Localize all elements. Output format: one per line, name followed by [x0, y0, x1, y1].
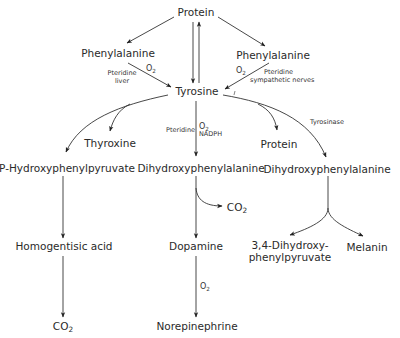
dhpp-line2: phenylpyruvate [249, 251, 332, 263]
node-dihydroxyphenylalanine-center: Dihydroxyphenylalanine [137, 162, 264, 174]
node-dihydroxyphenylpyruvate: 3,4-Dihydroxy- phenylpyruvate [249, 239, 332, 263]
co2-text: CO [53, 320, 69, 332]
node-phenylalanine-right: Phenylalanine [236, 49, 310, 61]
arrow-dopa-right-to-dhpp [290, 176, 328, 235]
label-left-o2: O2 [146, 64, 156, 76]
dhpp-line1: 3,4-Dihydroxy- [249, 239, 332, 251]
subscript-2: 2 [242, 206, 247, 215]
node-co2-center: CO2 [227, 201, 247, 217]
arrow-dopa-right-to-melanin [328, 208, 363, 236]
label-center-nadph: NADPH [199, 131, 222, 139]
node-tyrosine: Tyrosine [175, 85, 218, 97]
arrow-protein-to-phenylalanine-left [127, 17, 174, 43]
label-dopamine-o2: O2 [200, 282, 210, 294]
label-right-cofactor: Pteridine sympathetic nerves [250, 69, 314, 84]
label-left-cofactor: Pteridine liver [108, 70, 137, 85]
node-dopamine: Dopamine [169, 240, 223, 252]
subscript-2: 2 [68, 325, 73, 334]
arrow-protein-to-phenylalanine-right [218, 17, 265, 46]
label-right-o2: O2 [236, 66, 246, 78]
node-melanin: Melanin [346, 241, 387, 253]
label-tyrosinase: Tyrosinase [310, 119, 344, 127]
node-protein-top: Protein [178, 6, 215, 18]
node-norepinephrine: Norepinephrine [156, 320, 237, 332]
label-center-cofactor: Pteridine [166, 127, 195, 135]
arrow-dopa-to-co2 [196, 188, 222, 206]
node-dihydroxyphenylalanine-right: Dihydroxyphenylalanine [263, 163, 390, 175]
node-p-hydroxyphenylpyruvate: P-Hydroxyphenylpyruvate [0, 162, 135, 174]
node-phenylalanine-left: Phenylalanine [81, 47, 155, 59]
node-homogentisic-acid: Homogentisic acid [15, 240, 112, 252]
co2-text: CO [227, 201, 243, 213]
node-protein-mid: Protein [261, 138, 298, 150]
node-thyroxine: Thyroxine [84, 137, 136, 149]
arrow-tyrosine-to-protein-mid [258, 104, 277, 130]
node-co2-bottom: CO2 [53, 320, 73, 336]
